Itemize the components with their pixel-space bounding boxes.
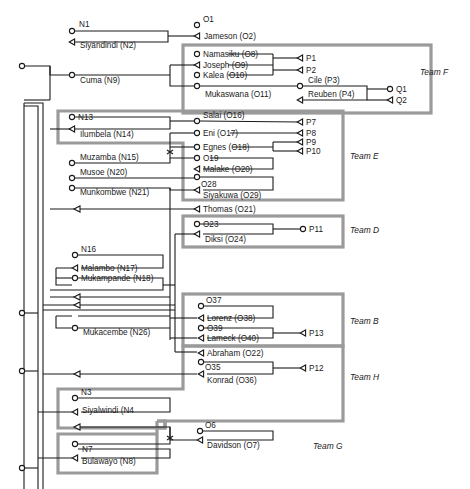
triangle-icon (198, 350, 203, 356)
node-label: O19 (203, 154, 219, 163)
open-circle-icon (69, 72, 74, 77)
open-circle-icon (72, 395, 77, 400)
node-n26: Mukacembe (N26) (72, 325, 150, 337)
node-label: Cile (P3) (308, 76, 340, 85)
node-label: Bulawayo (N8) (82, 457, 136, 466)
team-label-b: Team B (350, 316, 379, 326)
team-labels: Team FTeam ETeam DTeam BTeam HTeam G (313, 67, 449, 451)
node-q1: Q1 (387, 85, 407, 94)
node-label: Diksi (O24) (205, 235, 246, 244)
node-p1: P1 (297, 54, 316, 63)
team-label-g: Team G (313, 441, 343, 451)
node-o39: O39 (198, 324, 223, 333)
node-label: Kalea (O10) (203, 71, 247, 80)
node-label: Q2 (396, 96, 407, 105)
open-circle-icon (194, 130, 199, 135)
triangle-icon (297, 55, 302, 61)
open-circle-icon (69, 185, 74, 190)
node-n13: N13 (69, 113, 93, 122)
node-label: P7 (306, 118, 316, 127)
team-label-h: Team H (350, 372, 380, 382)
triangle-icon (194, 62, 199, 68)
triangle-icon (194, 206, 199, 212)
open-circle-icon (72, 441, 77, 446)
node-label: Egnes (O18) (203, 143, 250, 152)
triangle-icon (194, 166, 199, 172)
node-o35: O35 (198, 359, 221, 372)
node-label: Lameck (O40) (207, 334, 259, 343)
node-p12: P12 (300, 364, 324, 373)
triangle-icon (194, 187, 199, 193)
node-o10: Kalea (O10) (194, 71, 247, 80)
node-p4: Reuben (P4) (297, 90, 354, 103)
node-o1: O1 (194, 15, 214, 28)
node-o37: O37 (198, 296, 222, 309)
node-label: N13 (78, 113, 93, 122)
node-n8: Bulawayo (N8) (72, 455, 136, 466)
node-label: Jameson (O2) (204, 32, 256, 41)
node-label: Malake (O20) (203, 165, 253, 174)
node-label: O6 (205, 421, 216, 430)
node-p13: P13 (300, 329, 324, 338)
triangle-icon (198, 335, 203, 341)
triangle-icon (300, 330, 305, 336)
triangle-icon (297, 67, 302, 73)
node-n16: N16 (72, 245, 96, 258)
node-o36: Konrad (O36) (198, 371, 257, 385)
node-label: O1 (203, 15, 214, 24)
node-o18: Egnes (O18) (194, 143, 249, 152)
open-circle-icon (72, 252, 77, 257)
team-network-diagram: N1Siyandindi (N2)O1Jameson (O2)Cuma (N9)… (0, 0, 470, 489)
node-label: Q1 (396, 85, 407, 94)
node-p7: P7 (297, 118, 316, 127)
node-o17: Eni (O17) (194, 129, 238, 138)
node-label: Malambo (N17) (81, 264, 138, 273)
node-o19: O19 (194, 154, 219, 163)
node-label: O35 (205, 363, 221, 372)
triangle-icon (297, 148, 302, 154)
open-circle-icon (194, 22, 199, 27)
node-label: P13 (309, 329, 324, 338)
triangle-icon (72, 455, 77, 461)
node-p10: P10 (297, 147, 321, 156)
open-circle-icon (194, 118, 199, 123)
triangle-icon (297, 119, 302, 125)
node-label: Konrad (O36) (207, 376, 257, 385)
node-n1: N1 (69, 20, 90, 34)
node-o2: Jameson (O2) (194, 32, 256, 41)
node-o20: Malake (O20) (194, 165, 253, 174)
node-label: Muzamba (N15) (80, 153, 139, 162)
team-label-e: Team E (350, 151, 379, 161)
open-circle-icon (194, 221, 199, 226)
node-label: N3 (81, 388, 92, 397)
triangle-icon (387, 97, 392, 103)
node-label: Thomas (O21) (203, 205, 256, 214)
triangle-icon (194, 231, 199, 237)
triangle-icon (198, 315, 203, 321)
open-circle-icon (194, 83, 199, 88)
node-n9: Cuma (N9) (69, 72, 120, 85)
node-label: Lorenz (O38) (207, 314, 256, 323)
triangle-icon (72, 265, 77, 271)
open-circle-icon (72, 325, 77, 330)
team-h-box (58, 346, 343, 428)
open-circle-icon (194, 174, 199, 179)
node-o9: Joseph (O9) (194, 61, 248, 70)
node-label: P12 (309, 364, 324, 373)
node-n15: Muzamba (N15) (69, 153, 139, 166)
node-n2: Siyandindi (N2) (69, 39, 136, 50)
node-label: Joseph (O9) (203, 61, 248, 70)
node-o7: Davidson (O7) (197, 437, 260, 450)
node-label: Siyalwindi (N4 (82, 406, 134, 415)
open-circle-icon (72, 275, 77, 280)
node-label: O37 (206, 296, 222, 305)
node-label: O39 (207, 324, 223, 333)
node-n4: Siyalwindi (N4 (72, 406, 134, 415)
open-circle-icon (198, 325, 203, 330)
node-label: Reuben (P4) (308, 90, 355, 99)
node-label: Siyandindi (N2) (80, 41, 136, 50)
node-label: Namasiku (O8) (203, 50, 258, 59)
node-o24: Diksi (O24) (194, 231, 246, 244)
open-circle-icon (69, 114, 74, 119)
node-p3: Cile (P3) (297, 76, 340, 89)
